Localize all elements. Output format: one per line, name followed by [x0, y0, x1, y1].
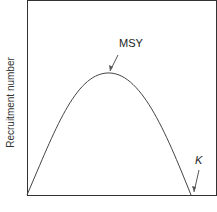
chart-canvas	[0, 0, 217, 212]
k-arrowhead-icon	[192, 186, 196, 192]
k-annotation: K	[195, 154, 202, 166]
y-axis-label: Recruitment number	[5, 43, 16, 163]
msy-annotation: MSY	[119, 37, 143, 49]
recruitment-curve	[27, 73, 191, 195]
plot-frame	[28, 1, 217, 196]
